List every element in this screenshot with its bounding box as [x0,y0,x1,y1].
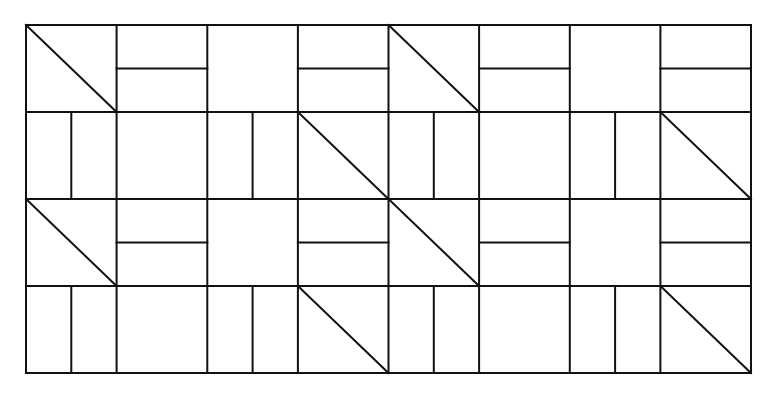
tile-diagonal [298,286,389,373]
tile-diagonal [660,112,751,199]
tile-diagonal [389,25,480,112]
tiling-diagram [0,0,771,393]
tile-diagonal [26,25,117,112]
tile-diagonal [26,199,117,286]
tile-diagonal [660,286,751,373]
tile-diagonal [298,112,389,199]
tiling-grid-svg [0,0,771,393]
tile-diagonal [389,199,480,286]
